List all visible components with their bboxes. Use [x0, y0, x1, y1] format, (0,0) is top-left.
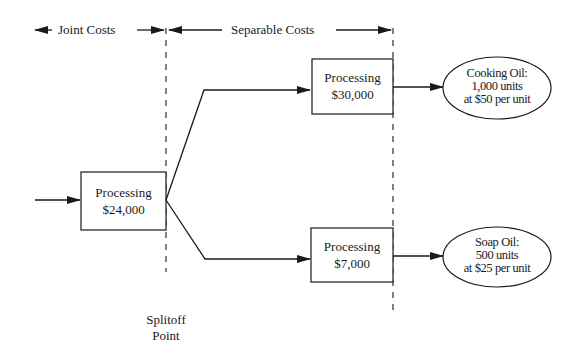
soap-processing-title: Processing [311, 238, 393, 255]
cooking-processing-cost: $30,000 [312, 86, 393, 103]
branch-to-soap [166, 200, 310, 259]
joint-processing-cost: $24,000 [81, 201, 166, 218]
joint-processing-node: Processing $24,000 [81, 184, 166, 218]
soap-processing-cost: $7,000 [311, 255, 393, 272]
cooking-processing-title: Processing [312, 69, 393, 86]
branch-to-cooking [166, 90, 310, 200]
soap-oil-price: at $25 per unit [443, 262, 551, 275]
splitoff-point-label: Splitoff Point [140, 312, 192, 344]
diagram-canvas [0, 0, 586, 356]
joint-costs-label: Joint Costs [58, 22, 115, 37]
joint-processing-title: Processing [81, 184, 166, 201]
separable-costs-label: Separable Costs [231, 22, 314, 37]
soap-oil-product: Soap Oil: 500 units at $25 per unit [443, 236, 551, 275]
splitoff-line2: Point [140, 328, 192, 344]
cooking-oil-price: at $50 per unit [443, 93, 551, 106]
cooking-processing-node: Processing $30,000 [312, 69, 393, 103]
soap-processing-node: Processing $7,000 [311, 238, 393, 272]
cooking-oil-product: Cooking Oil: 1,000 units at $50 per unit [443, 67, 551, 106]
splitoff-line1: Splitoff [140, 312, 192, 328]
